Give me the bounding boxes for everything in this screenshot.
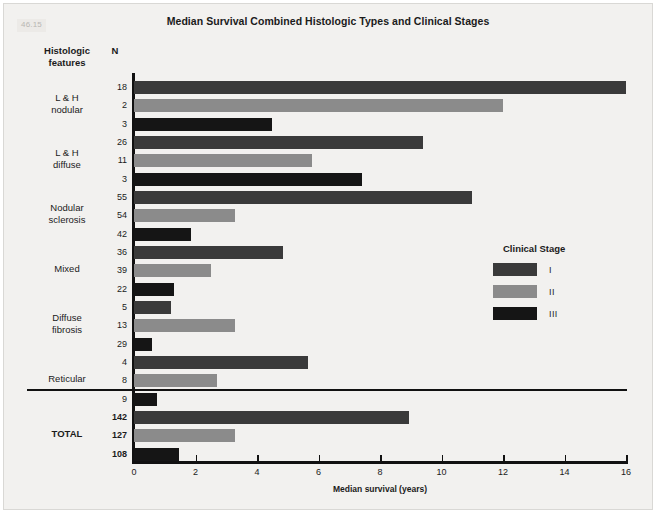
bar-stage-iii xyxy=(134,173,362,186)
bar-row: 42 xyxy=(3,228,653,241)
bar-stage-ii xyxy=(134,154,312,167)
bar-n-value: 29 xyxy=(99,338,127,351)
bar-n-value: 8 xyxy=(99,374,127,387)
bar-stage-i xyxy=(134,246,283,259)
chart-title: Median Survival Combined Histologic Type… xyxy=(3,15,653,27)
legend-item: II xyxy=(493,285,623,298)
bar-row: 8 xyxy=(3,374,653,387)
bar-stage-ii xyxy=(134,319,235,332)
bar-stage-ii xyxy=(134,374,217,387)
legend-label: II xyxy=(549,287,555,297)
bar-stage-i xyxy=(134,81,626,94)
bar-n-value: 127 xyxy=(99,429,127,442)
bar-row: 11 xyxy=(3,154,653,167)
bar-row: 3 xyxy=(3,118,653,131)
bar-n-value: 36 xyxy=(99,246,127,259)
bar-n-value: 13 xyxy=(99,319,127,332)
x-tick-label: 6 xyxy=(304,467,334,477)
x-tick-label: 2 xyxy=(181,467,211,477)
bar-n-value: 108 xyxy=(99,448,127,461)
bar-stage-iii xyxy=(134,228,191,241)
bar-n-value: 4 xyxy=(99,356,127,369)
legend-swatch xyxy=(493,307,537,320)
bar-n-value: 3 xyxy=(99,173,127,186)
bar-n-value: 42 xyxy=(99,228,127,241)
x-tick-label: 0 xyxy=(119,467,149,477)
bar-row: 4 xyxy=(3,356,653,369)
bar-row: 9 xyxy=(3,393,653,406)
bar-row: 54 xyxy=(3,209,653,222)
bar-stage-ii xyxy=(134,99,503,112)
bar-stage-i xyxy=(134,191,472,204)
bar-stage-i xyxy=(134,356,308,369)
bar-stage-iii xyxy=(134,338,152,351)
x-tick-label: 14 xyxy=(550,467,580,477)
x-tick-label: 16 xyxy=(611,467,641,477)
bar-n-value: 39 xyxy=(99,264,127,277)
bar-n-value: 11 xyxy=(99,154,127,167)
bar-n-value: 22 xyxy=(99,283,127,296)
bar-row: 2 xyxy=(3,99,653,112)
x-tick-label: 12 xyxy=(488,467,518,477)
legend: Clinical Stage IIIIII xyxy=(493,243,623,329)
bar-stage-iii xyxy=(134,393,157,406)
header-line-1: Histologic xyxy=(29,45,105,57)
header-line-2: features xyxy=(29,57,105,69)
bar-n-value: 18 xyxy=(99,81,127,94)
legend-swatch xyxy=(493,285,537,298)
bar-n-value: 2 xyxy=(99,99,127,112)
legend-label: III xyxy=(549,309,558,319)
legend-items: IIIIII xyxy=(493,263,623,320)
total-divider xyxy=(27,389,627,391)
x-axis-label: Median survival (years) xyxy=(134,484,626,494)
bar-stage-iii xyxy=(134,283,174,296)
bar-n-value: 5 xyxy=(99,301,127,314)
bar-stage-i xyxy=(134,411,409,424)
x-tick-label: 4 xyxy=(242,467,272,477)
legend-item: I xyxy=(493,263,623,276)
bar-row: 26 xyxy=(3,136,653,149)
bar-n-value: 55 xyxy=(99,191,127,204)
column-header-n: N xyxy=(103,45,127,56)
bar-row: 127 xyxy=(3,429,653,442)
bar-stage-iii xyxy=(134,448,179,461)
bar-n-value: 3 xyxy=(99,118,127,131)
bar-stage-ii xyxy=(134,429,235,442)
figure-panel: 46.15 Median Survival Combined Histologi… xyxy=(0,0,656,513)
x-tick-label: 10 xyxy=(427,467,457,477)
bar-row: 108 xyxy=(3,448,653,461)
bar-n-value: 26 xyxy=(99,136,127,149)
bar-stage-i xyxy=(134,136,423,149)
x-tick-label: 8 xyxy=(365,467,395,477)
bar-row: 3 xyxy=(3,173,653,186)
bar-stage-ii xyxy=(134,264,211,277)
legend-item: III xyxy=(493,307,623,320)
bar-stage-i xyxy=(134,301,171,314)
bar-stage-iii xyxy=(134,118,272,131)
bar-n-value: 9 xyxy=(99,393,127,406)
bar-stage-ii xyxy=(134,209,235,222)
bar-row: 55 xyxy=(3,191,653,204)
legend-label: I xyxy=(549,265,552,275)
legend-title: Clinical Stage xyxy=(503,243,623,254)
column-header-histologic-features: Histologic features xyxy=(29,45,105,68)
legend-swatch xyxy=(493,263,537,276)
bar-n-value: 54 xyxy=(99,209,127,222)
bar-row: 29 xyxy=(3,338,653,351)
bar-row: 18 xyxy=(3,81,653,94)
bar-n-value: 142 xyxy=(99,411,127,424)
bar-row: 142 xyxy=(3,411,653,424)
